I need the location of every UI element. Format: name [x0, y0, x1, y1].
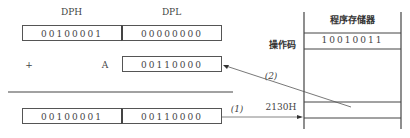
opcode-label: 操作码 — [269, 38, 303, 51]
step1-label: (1) — [227, 104, 247, 114]
result-low-box: 00110000 — [121, 108, 222, 124]
program-memory-title: 程序存储器 — [304, 13, 401, 26]
accumulator-box: 00110000 — [122, 56, 222, 72]
dpl-label: DPL — [122, 7, 221, 17]
plus-sign: + — [24, 60, 34, 70]
dpl-register-box: 00000000 — [121, 25, 222, 41]
address-label: 2130H — [263, 102, 299, 112]
arrowhead-step1 — [297, 115, 303, 119]
dph-register-box: 00100001 — [22, 25, 122, 41]
arrow-step2 — [226, 66, 351, 107]
dph-label: DPH — [22, 7, 121, 17]
opcode-value: 10010011 — [304, 35, 401, 45]
accumulator-label: A — [99, 60, 111, 70]
result-high-box: 00100001 — [22, 108, 122, 124]
step2-label: (2) — [261, 71, 281, 81]
